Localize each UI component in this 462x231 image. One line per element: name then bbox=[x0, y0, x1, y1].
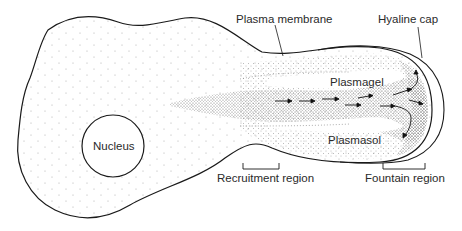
recruitment-region-bracket bbox=[243, 163, 279, 169]
hyaline-cap-label: Hyaline cap bbox=[378, 14, 438, 26]
amoeba-illustration bbox=[0, 0, 462, 231]
amoeba-diagram: Nucleus Plasma membrane Hyaline cap Plas… bbox=[0, 0, 462, 231]
plasmagel-label: Plasmagel bbox=[330, 77, 384, 89]
nucleus-label: Nucleus bbox=[93, 141, 135, 153]
fountain-region-bracket bbox=[383, 163, 425, 169]
plasmasol-label: Plasmasol bbox=[328, 135, 381, 147]
hyaline-cap-leader bbox=[418, 27, 422, 58]
plasma-membrane-leader bbox=[275, 25, 283, 56]
recruitment-region-label: Recruitment region bbox=[217, 173, 314, 185]
fountain-region-label: Fountain region bbox=[365, 173, 445, 185]
plasma-membrane-label: Plasma membrane bbox=[236, 14, 333, 26]
